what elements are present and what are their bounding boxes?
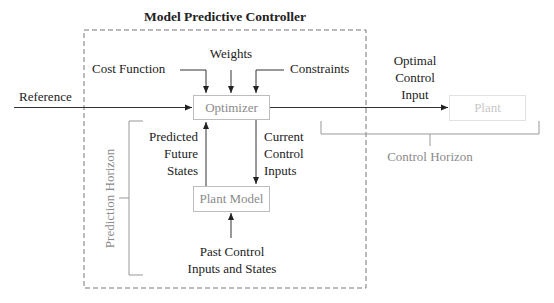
control-horizon-bracket xyxy=(321,121,539,134)
prediction-horizon-label: Prediction Horizon xyxy=(102,139,119,259)
reference-label: Reference xyxy=(19,88,72,105)
current-control-inputs-label: Current Control Inputs xyxy=(264,128,304,179)
predicted-future-states-label: Predicted Future States xyxy=(130,128,198,179)
plant-model-block: Plant Model xyxy=(193,186,270,212)
cost-function-label: Cost Function xyxy=(92,60,165,77)
plant-block: Plant xyxy=(449,95,526,121)
cost-function-arrow xyxy=(180,70,206,93)
constraints-label: Constraints xyxy=(290,60,349,77)
constraints-arrow xyxy=(256,70,284,93)
optimal-control-input-label: Optimal Control Input xyxy=(380,52,450,103)
diagram-title: Model Predictive Controller xyxy=(115,8,335,25)
weights-label: Weights xyxy=(201,45,261,62)
optimizer-block: Optimizer xyxy=(193,95,270,120)
past-control-inputs-label: Past Control Inputs and States xyxy=(170,243,294,277)
control-horizon-label: Control Horizon xyxy=(380,148,480,165)
